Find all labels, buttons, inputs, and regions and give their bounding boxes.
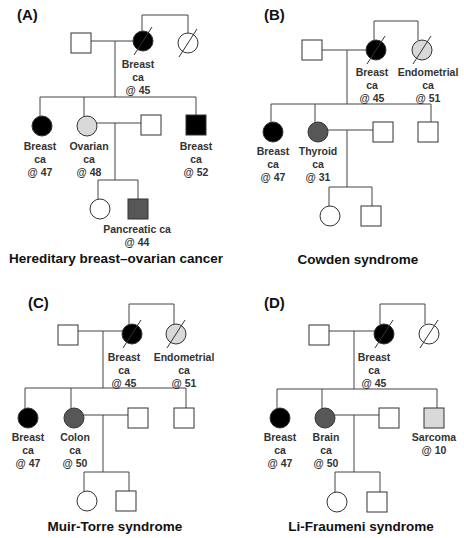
diagnosis-annotation: @ 44 — [125, 236, 150, 248]
diagnosis-annotation: Brain — [313, 431, 340, 443]
diagnosis-annotation: Breast — [12, 431, 45, 443]
female-symbol-icon — [327, 492, 347, 512]
male-symbol-icon — [367, 492, 387, 512]
male-individual — [174, 408, 194, 428]
pedigree-panel-c: (C)Breastca@ 45Endometrialca@ 51Breastca… — [12, 294, 215, 534]
pedigree-panel-d: (D)Breastca@ 45Breastca@ 47Brainca@ 50Sa… — [264, 294, 457, 534]
diagnosis-annotation: ca — [368, 364, 380, 376]
female-individual: Thyroidca@ 31 — [299, 122, 338, 183]
male-symbol-icon — [361, 206, 381, 226]
diagnosis-annotation: ca — [274, 444, 286, 456]
diagnosis-annotation: Ovarian — [69, 140, 108, 152]
panel-label: (C) — [28, 294, 49, 311]
diagnosis-annotation: @ 45 — [360, 92, 385, 104]
diagnosis-annotation: @ 10 — [422, 444, 447, 456]
female-individual: Breastca@ 45 — [108, 320, 142, 389]
female-individual: Breastca@ 47 — [257, 122, 290, 183]
male-individual — [128, 408, 148, 428]
diagnosis-annotation: @ 51 — [416, 92, 441, 104]
male-individual: Pancreatic ca@ 44 — [103, 199, 171, 248]
diagnosis-annotation: @ 51 — [172, 377, 197, 389]
female-symbol-icon — [64, 408, 84, 428]
female-individual: Breastca@ 45 — [122, 27, 155, 96]
female-individual: Endometrialca@ 51 — [154, 320, 215, 389]
female-symbol-icon — [315, 408, 335, 428]
male-symbol-icon — [302, 40, 322, 60]
diagnosis-annotation: Breast — [24, 140, 57, 152]
diagnosis-annotation: ca — [312, 158, 324, 170]
diagnosis-annotation: ca — [366, 79, 378, 91]
male-individual — [367, 492, 387, 512]
diagnosis-annotation: Sarcoma — [412, 431, 457, 443]
diagnosis-annotation: ca — [83, 153, 95, 165]
diagnosis-annotation: Breast — [358, 351, 391, 363]
male-symbol-icon — [116, 491, 136, 511]
diagnosis-annotation: @ 47 — [261, 171, 286, 183]
syndrome-title: Hereditary breast–ovarian cancer — [9, 251, 224, 266]
male-symbol-icon — [373, 122, 393, 142]
male-individual — [141, 115, 161, 135]
diagnosis-annotation: Endometrial — [154, 351, 215, 363]
diagnosis-annotation: ca — [22, 444, 34, 456]
diagnosis-annotation: Breast — [108, 351, 141, 363]
diagnosis-annotation: @ 48 — [77, 166, 102, 178]
syndrome-title: Cowden syndrome — [298, 252, 419, 267]
male-individual: Breastca@ 52 — [180, 115, 213, 178]
male-symbol-icon — [174, 408, 194, 428]
diagnosis-annotation: ca — [320, 444, 332, 456]
male-symbol-icon — [128, 199, 148, 219]
diagnosis-annotation: ca — [178, 364, 190, 376]
diagnosis-annotation: ca — [267, 158, 279, 170]
male-symbol-icon — [186, 115, 206, 135]
female-individual — [327, 492, 347, 512]
female-symbol-icon — [320, 206, 340, 226]
female-individual: Breastca@ 45 — [356, 36, 389, 104]
diagnosis-annotation: @ 45 — [112, 377, 137, 389]
pedigree-panel-b: (B)Breastca@ 45Endometrialca@ 51Breastca… — [257, 6, 459, 267]
diagnosis-annotation: Pancreatic ca — [103, 223, 171, 235]
male-symbol-icon — [309, 325, 329, 345]
diagnosis-annotation: @ 47 — [16, 457, 41, 469]
diagnosis-annotation: ca — [132, 71, 144, 83]
diagnosis-annotation: Breast — [180, 140, 213, 152]
female-symbol-icon — [308, 122, 328, 142]
diagnosis-annotation: ca — [190, 153, 202, 165]
male-symbol-icon — [128, 408, 148, 428]
male-symbol-icon — [71, 33, 91, 53]
male-individual — [71, 33, 91, 53]
syndrome-title: Muir-Torre syndrome — [48, 519, 183, 534]
male-individual — [379, 408, 399, 428]
diagnosis-annotation: Breast — [257, 145, 290, 157]
female-individual: Breastca@ 45 — [358, 320, 394, 389]
female-individual — [320, 206, 340, 226]
female-symbol-icon — [270, 408, 290, 428]
panel-label: (A) — [17, 6, 38, 23]
male-symbol-icon — [418, 122, 438, 142]
diagnosis-annotation: @ 52 — [184, 166, 209, 178]
female-individual — [178, 29, 198, 57]
diagnosis-annotation: Endometrial — [398, 66, 459, 78]
female-individual: Breastca@ 47 — [24, 116, 57, 178]
male-symbol-icon — [379, 408, 399, 428]
diagnosis-annotation: ca — [118, 364, 130, 376]
male-individual — [309, 325, 329, 345]
syndrome-title: Li-Fraumeni syndrome — [288, 519, 434, 534]
male-individual — [116, 491, 136, 511]
female-symbol-icon — [18, 408, 38, 428]
diagnosis-annotation: ca — [69, 444, 81, 456]
diagnosis-annotation: Thyroid — [299, 145, 338, 157]
female-symbol-icon — [77, 491, 97, 511]
diagnosis-annotation: Breast — [356, 66, 389, 78]
panel-label: (B) — [264, 6, 285, 23]
diagnosis-annotation: @ 31 — [306, 171, 331, 183]
female-individual — [419, 320, 439, 348]
female-individual — [90, 199, 110, 219]
diagnosis-annotation: @ 45 — [362, 377, 387, 389]
diagnosis-annotation: @ 47 — [28, 166, 53, 178]
male-individual: Sarcoma@ 10 — [412, 408, 457, 456]
diagnosis-annotation: ca — [34, 153, 46, 165]
female-individual: Colonca@ 50 — [60, 408, 90, 469]
female-symbol-icon — [32, 116, 52, 136]
male-individual — [361, 206, 381, 226]
pedigree-figure: (A)Breastca@ 45Breastca@ 47Ovarianca@ 48… — [0, 0, 464, 538]
